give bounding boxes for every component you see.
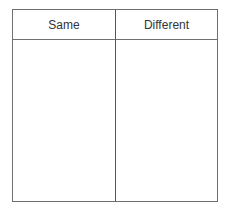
different-column-body	[116, 40, 217, 201]
same-different-table: Same Different	[12, 9, 218, 202]
column-header-different: Different	[116, 10, 217, 40]
same-column-body	[13, 40, 116, 201]
column-header-same: Same	[13, 10, 116, 40]
